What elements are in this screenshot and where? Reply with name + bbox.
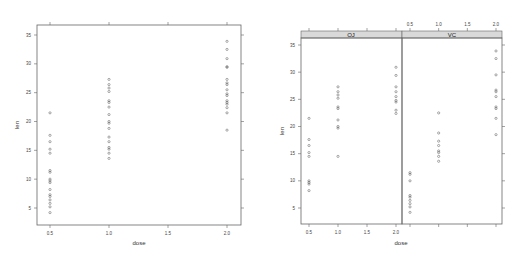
data-point bbox=[308, 151, 310, 153]
data-point bbox=[49, 199, 51, 201]
data-point bbox=[337, 91, 339, 93]
right-y-axis-title: len bbox=[279, 127, 285, 135]
data-point bbox=[395, 86, 397, 88]
data-point bbox=[49, 141, 51, 143]
data-point bbox=[409, 180, 411, 182]
data-point bbox=[409, 199, 411, 201]
data-point bbox=[395, 112, 397, 114]
data-point bbox=[395, 96, 397, 98]
y-tick-label: 35 bbox=[290, 43, 296, 48]
right-trellis-plot: OJ VC 0.50.51.01.01.51.52.02.05101520253… bbox=[279, 22, 505, 246]
data-point bbox=[108, 87, 110, 89]
data-point bbox=[226, 40, 228, 42]
data-point bbox=[49, 112, 51, 114]
data-point bbox=[49, 202, 51, 204]
data-point bbox=[438, 144, 440, 146]
data-point bbox=[337, 155, 339, 157]
data-point bbox=[308, 117, 310, 119]
y-tick-label: 25 bbox=[26, 90, 32, 95]
data-point bbox=[108, 83, 110, 85]
data-point bbox=[49, 212, 51, 214]
data-point bbox=[308, 190, 310, 192]
y-tick-label: 35 bbox=[26, 33, 32, 38]
left-plot-frame bbox=[37, 25, 241, 225]
data-point bbox=[409, 203, 411, 205]
y-tick-label: 10 bbox=[26, 177, 32, 182]
panel-vc-frame bbox=[402, 38, 502, 224]
data-point bbox=[308, 138, 310, 140]
strip-oj-label: OJ bbox=[347, 32, 355, 38]
strip-vc-label: VC bbox=[448, 32, 457, 38]
data-point bbox=[337, 97, 339, 99]
y-tick-label: 10 bbox=[290, 178, 296, 183]
x-tick-label-oj: 2.0 bbox=[393, 230, 400, 235]
data-point bbox=[409, 211, 411, 213]
data-point bbox=[495, 74, 497, 76]
data-point bbox=[108, 157, 110, 159]
data-point bbox=[308, 155, 310, 157]
data-point bbox=[108, 141, 110, 143]
data-point bbox=[226, 78, 228, 80]
data-point bbox=[49, 206, 51, 208]
x-tick-label-vc: 1.5 bbox=[464, 22, 471, 27]
data-point bbox=[438, 132, 440, 134]
left-x-axis-title: dose bbox=[132, 240, 146, 246]
x-tick-label: 1.5 bbox=[165, 231, 172, 236]
data-point bbox=[49, 148, 51, 150]
data-point bbox=[438, 155, 440, 157]
y-tick-label: 20 bbox=[290, 124, 296, 129]
data-point bbox=[495, 117, 497, 119]
x-tick-label-oj: 0.5 bbox=[306, 230, 313, 235]
x-tick-label-vc: 0.5 bbox=[407, 22, 414, 27]
data-point bbox=[108, 106, 110, 108]
data-point bbox=[108, 113, 110, 115]
data-point bbox=[108, 136, 110, 138]
data-point bbox=[337, 119, 339, 121]
data-point bbox=[226, 107, 228, 109]
data-point bbox=[226, 48, 228, 50]
data-point bbox=[337, 86, 339, 88]
data-point bbox=[495, 96, 497, 98]
data-point bbox=[226, 58, 228, 60]
x-tick-label-vc: 1.0 bbox=[436, 22, 443, 27]
chart-canvas: 0.51.01.52.05101520253035 dose len OJ VC… bbox=[0, 0, 518, 257]
data-point bbox=[409, 206, 411, 208]
x-tick-label-oj: 1.5 bbox=[364, 230, 371, 235]
y-tick-label: 15 bbox=[290, 151, 296, 156]
x-tick-label: 2.0 bbox=[224, 231, 231, 236]
data-point bbox=[49, 134, 51, 136]
left-scatter-plot: 0.51.01.52.05101520253035 dose len bbox=[14, 22, 244, 246]
left-data-points bbox=[49, 40, 228, 213]
data-point bbox=[308, 144, 310, 146]
data-point bbox=[226, 129, 228, 131]
right-data-points bbox=[308, 50, 497, 214]
x-tick-label: 1.0 bbox=[106, 231, 113, 236]
left-axis-ticks: 0.51.01.52.05101520253035 bbox=[26, 22, 244, 236]
data-point bbox=[337, 94, 339, 96]
data-point bbox=[495, 50, 497, 52]
data-point bbox=[438, 112, 440, 114]
y-tick-label: 30 bbox=[26, 61, 32, 66]
x-tick-label-vc: 2.0 bbox=[493, 22, 500, 27]
data-point bbox=[49, 152, 51, 154]
data-point bbox=[108, 90, 110, 92]
data-point bbox=[495, 57, 497, 59]
right-x-axis-title: dose bbox=[394, 240, 408, 246]
data-point bbox=[226, 89, 228, 91]
data-point bbox=[108, 127, 110, 129]
y-tick-label: 20 bbox=[26, 119, 32, 124]
data-point bbox=[108, 152, 110, 154]
y-tick-label: 5 bbox=[292, 206, 295, 211]
data-point bbox=[438, 160, 440, 162]
data-point bbox=[49, 188, 51, 190]
x-tick-label: 0.5 bbox=[47, 231, 54, 236]
left-y-axis-title: len bbox=[14, 121, 20, 129]
data-point bbox=[395, 66, 397, 68]
x-tick-label-oj: 1.0 bbox=[335, 230, 342, 235]
y-tick-label: 30 bbox=[290, 70, 296, 75]
data-point bbox=[438, 140, 440, 142]
panel-oj-frame bbox=[301, 38, 402, 224]
data-point bbox=[395, 109, 397, 111]
data-point bbox=[226, 112, 228, 114]
right-axis-ticks: 0.50.51.01.01.51.52.02.05101520253035 bbox=[290, 22, 505, 235]
